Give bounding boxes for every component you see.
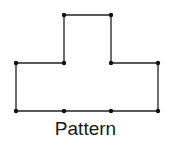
vertex-point [62, 61, 66, 65]
vertex-point [14, 109, 18, 113]
diagram-caption: Pattern [0, 118, 171, 140]
vertex-point [62, 13, 66, 17]
vertex-point [62, 109, 66, 113]
vertex-point [14, 61, 18, 65]
pattern-outline [16, 15, 158, 111]
vertex-point [109, 13, 113, 17]
vertex-point [109, 109, 113, 113]
vertex-point [156, 109, 160, 113]
vertex-point [109, 61, 113, 65]
vertex-point [156, 61, 160, 65]
